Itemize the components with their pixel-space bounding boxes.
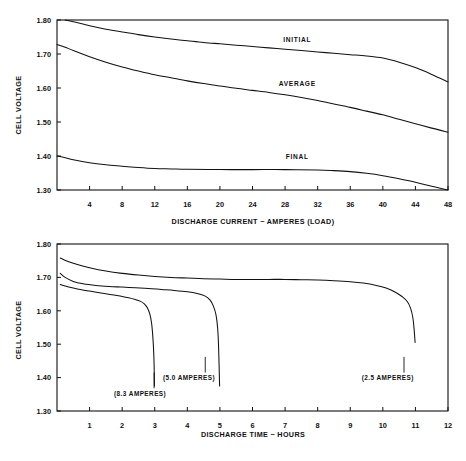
bottom-y-axis-tick-labels: 1.301.401.501.601.701.80 [37,240,51,416]
series-annotation-label: (8.3 AMPERES) [114,390,166,398]
bottom-series-curves [60,258,415,386]
y-tick-label: 1.40 [37,373,51,382]
bottom-plot-frame [57,244,448,411]
chart-discharge-current: 1.301.401.501.601.701.80 481216202428323… [0,0,466,230]
bottom-x-axis-title: DISCHARGE TIME ~ HOURS [201,430,305,439]
top-chart-svg: 1.301.401.501.601.701.80 481216202428323… [0,0,466,230]
bottom-chart-svg: 1.301.401.501.601.701.80 123456789101112… [0,230,466,461]
y-tick-label: 1.30 [37,407,51,416]
top-series-inline-labels: INITIALAVERAGEFINAL [279,36,316,160]
bottom-x-axis-tick-labels: 123456789101112 [88,421,453,430]
x-tick-label: 1 [88,421,92,430]
x-tick-label: 44 [411,200,420,209]
series-label: AVERAGE [279,80,316,87]
y-tick-label: 1.70 [37,50,51,59]
series-annotation-label: (2.5 AMPERES) [362,374,414,382]
bottom-y-axis-title: CELL VOLTAGE [14,300,23,359]
series-curve [57,156,448,190]
x-tick-label: 5 [218,421,222,430]
top-y-axis-tick-labels: 1.301.401.501.601.701.80 [37,16,51,195]
x-tick-label: 16 [183,200,191,209]
x-tick-label: 8 [120,200,124,209]
y-tick-label: 1.60 [37,84,51,93]
top-y-axis-title: CELL VOLTAGE [14,75,23,134]
series-curve [60,284,154,386]
x-tick-label: 9 [348,421,352,430]
x-tick-label: 12 [151,200,159,209]
x-tick-label: 24 [248,200,257,209]
x-tick-label: 8 [316,421,320,430]
top-x-axis-title: DISCHARGE CURRENT ~ AMPERES (LOAD) [172,217,335,226]
x-tick-label: 28 [281,200,289,209]
x-tick-label: 12 [444,421,452,430]
chart-discharge-time: 1.301.401.501.601.701.80 123456789101112… [0,230,466,461]
y-tick-label: 1.60 [37,307,51,316]
y-tick-label: 1.30 [37,186,51,195]
x-tick-label: 7 [283,421,287,430]
y-tick-label: 1.50 [37,118,51,127]
x-tick-label: 11 [412,421,420,430]
series-label: FINAL [286,153,309,160]
series-curve [60,258,415,343]
top-plot-frame [57,20,448,190]
x-tick-label: 6 [250,421,254,430]
x-tick-label: 3 [153,421,157,430]
x-tick-label: 32 [314,200,322,209]
y-tick-label: 1.50 [37,340,51,349]
bottom-series-annotations: (8.3 AMPERES)(5.0 AMPERES)(2.5 AMPERES) [114,357,414,398]
x-tick-label: 40 [379,200,387,209]
series-label: INITIAL [283,36,311,43]
top-x-axis-tick-labels: 4812162024283236404448 [88,200,453,209]
y-tick-label: 1.80 [37,240,51,249]
x-tick-label: 10 [379,421,387,430]
bottom-y-axis-ticks [57,244,61,411]
series-curve [57,44,448,132]
bottom-x-axis-ticks [90,407,448,411]
y-tick-label: 1.80 [37,16,51,25]
x-tick-label: 36 [346,200,354,209]
top-x-axis-ticks [90,186,448,190]
y-tick-label: 1.70 [37,273,51,282]
series-curve [65,20,448,82]
x-tick-label: 48 [444,200,452,209]
x-tick-label: 20 [216,200,224,209]
x-tick-label: 4 [88,200,93,209]
series-annotation-label: (5.0 AMPERES) [163,374,215,382]
y-tick-label: 1.40 [37,152,51,161]
x-tick-label: 2 [120,421,124,430]
top-series-curves [57,20,448,190]
battery-discharge-figure: 1.301.401.501.601.701.80 481216202428323… [0,0,466,461]
x-tick-label: 4 [185,421,190,430]
